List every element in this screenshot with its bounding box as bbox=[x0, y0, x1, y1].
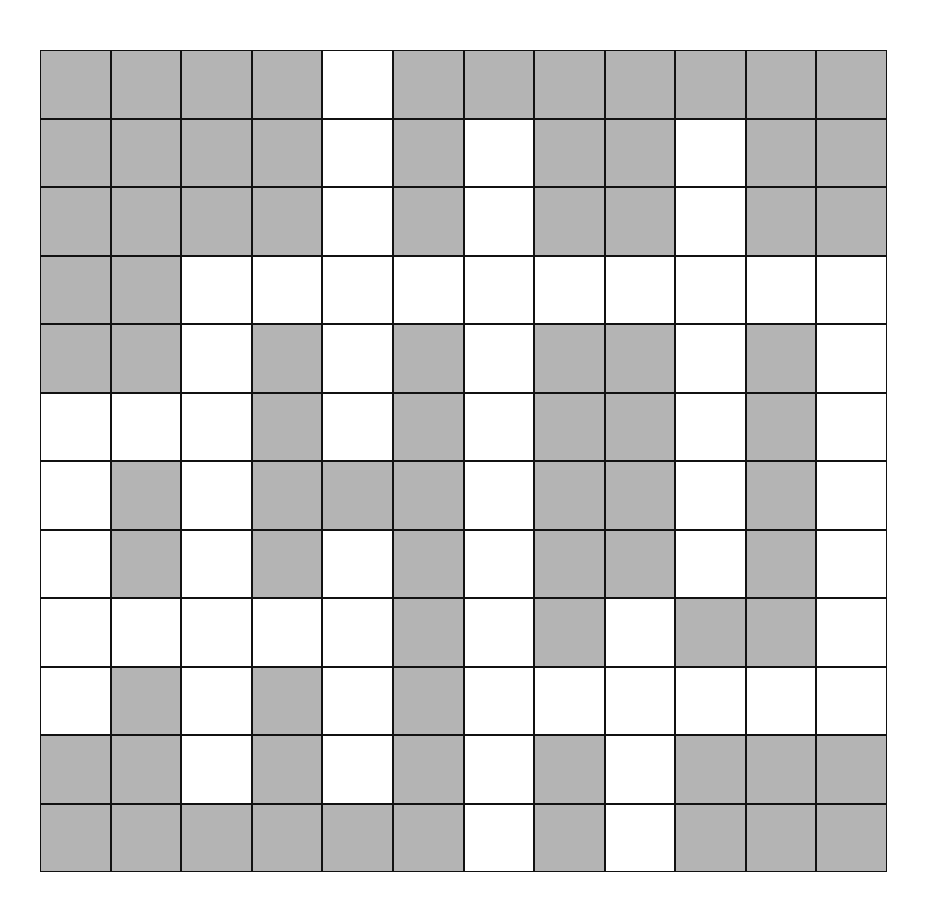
shaded-cell bbox=[394, 736, 463, 803]
empty-cell[interactable] bbox=[394, 257, 463, 324]
shaded-cell bbox=[465, 51, 534, 118]
empty-cell[interactable] bbox=[253, 257, 322, 324]
empty-cell[interactable] bbox=[323, 668, 392, 735]
empty-cell[interactable] bbox=[817, 325, 886, 392]
empty-cell[interactable] bbox=[817, 257, 886, 324]
shaded-cell bbox=[394, 394, 463, 461]
empty-cell[interactable] bbox=[182, 462, 251, 529]
shaded-cell bbox=[41, 325, 110, 392]
empty-cell[interactable] bbox=[817, 599, 886, 666]
empty-cell[interactable] bbox=[323, 736, 392, 803]
empty-cell[interactable] bbox=[182, 599, 251, 666]
shaded-cell bbox=[41, 51, 110, 118]
empty-cell[interactable] bbox=[323, 257, 392, 324]
empty-cell[interactable] bbox=[606, 668, 675, 735]
empty-cell[interactable] bbox=[676, 325, 745, 392]
empty-cell[interactable] bbox=[41, 462, 110, 529]
empty-cell[interactable] bbox=[606, 805, 675, 872]
empty-cell[interactable] bbox=[676, 394, 745, 461]
shaded-cell bbox=[253, 325, 322, 392]
empty-cell[interactable] bbox=[323, 188, 392, 255]
empty-cell[interactable] bbox=[323, 325, 392, 392]
empty-cell[interactable] bbox=[323, 51, 392, 118]
empty-cell[interactable] bbox=[676, 668, 745, 735]
shaded-cell bbox=[747, 325, 816, 392]
shaded-cell bbox=[606, 51, 675, 118]
shaded-cell bbox=[676, 599, 745, 666]
empty-cell[interactable] bbox=[606, 257, 675, 324]
empty-cell[interactable] bbox=[323, 531, 392, 598]
empty-cell[interactable] bbox=[323, 599, 392, 666]
empty-cell[interactable] bbox=[606, 599, 675, 666]
shaded-cell bbox=[606, 394, 675, 461]
shaded-cell bbox=[747, 51, 816, 118]
shaded-cell bbox=[394, 599, 463, 666]
empty-cell[interactable] bbox=[676, 462, 745, 529]
shaded-cell bbox=[535, 531, 604, 598]
empty-cell[interactable] bbox=[182, 325, 251, 392]
shaded-cell bbox=[535, 188, 604, 255]
empty-cell[interactable] bbox=[465, 394, 534, 461]
empty-cell[interactable] bbox=[41, 599, 110, 666]
empty-cell[interactable] bbox=[465, 531, 534, 598]
shaded-cell bbox=[535, 325, 604, 392]
shaded-cell bbox=[253, 462, 322, 529]
empty-cell[interactable] bbox=[747, 257, 816, 324]
shaded-cell bbox=[394, 188, 463, 255]
empty-cell[interactable] bbox=[465, 462, 534, 529]
empty-cell[interactable] bbox=[182, 257, 251, 324]
empty-cell[interactable] bbox=[465, 599, 534, 666]
empty-cell[interactable] bbox=[182, 531, 251, 598]
empty-cell[interactable] bbox=[606, 736, 675, 803]
shaded-cell bbox=[747, 805, 816, 872]
empty-cell[interactable] bbox=[323, 394, 392, 461]
empty-cell[interactable] bbox=[676, 188, 745, 255]
empty-cell[interactable] bbox=[817, 394, 886, 461]
shaded-cell bbox=[394, 531, 463, 598]
shaded-cell bbox=[253, 51, 322, 118]
shaded-cell bbox=[606, 325, 675, 392]
empty-cell[interactable] bbox=[112, 599, 181, 666]
empty-cell[interactable] bbox=[465, 188, 534, 255]
shaded-cell bbox=[253, 120, 322, 187]
shaded-cell bbox=[41, 257, 110, 324]
empty-cell[interactable] bbox=[182, 736, 251, 803]
shaded-cell bbox=[394, 668, 463, 735]
empty-cell[interactable] bbox=[465, 120, 534, 187]
empty-cell[interactable] bbox=[323, 120, 392, 187]
shaded-cell bbox=[41, 805, 110, 872]
shaded-cell bbox=[112, 188, 181, 255]
shaded-cell bbox=[112, 668, 181, 735]
empty-cell[interactable] bbox=[465, 668, 534, 735]
crossword-grid bbox=[40, 50, 887, 872]
empty-cell[interactable] bbox=[41, 394, 110, 461]
empty-cell[interactable] bbox=[41, 668, 110, 735]
empty-cell[interactable] bbox=[676, 120, 745, 187]
empty-cell[interactable] bbox=[112, 394, 181, 461]
shaded-cell bbox=[676, 51, 745, 118]
empty-cell[interactable] bbox=[41, 531, 110, 598]
empty-cell[interactable] bbox=[253, 599, 322, 666]
shaded-cell bbox=[253, 736, 322, 803]
empty-cell[interactable] bbox=[817, 668, 886, 735]
empty-cell[interactable] bbox=[465, 257, 534, 324]
empty-cell[interactable] bbox=[676, 257, 745, 324]
shaded-cell bbox=[817, 805, 886, 872]
empty-cell[interactable] bbox=[182, 394, 251, 461]
shaded-cell bbox=[112, 531, 181, 598]
shaded-cell bbox=[41, 120, 110, 187]
empty-cell[interactable] bbox=[535, 257, 604, 324]
shaded-cell bbox=[253, 188, 322, 255]
empty-cell[interactable] bbox=[182, 668, 251, 735]
empty-cell[interactable] bbox=[465, 805, 534, 872]
empty-cell[interactable] bbox=[676, 531, 745, 598]
shaded-cell bbox=[817, 188, 886, 255]
shaded-cell bbox=[606, 120, 675, 187]
empty-cell[interactable] bbox=[465, 325, 534, 392]
shaded-cell bbox=[41, 188, 110, 255]
empty-cell[interactable] bbox=[535, 668, 604, 735]
empty-cell[interactable] bbox=[747, 668, 816, 735]
empty-cell[interactable] bbox=[465, 736, 534, 803]
empty-cell[interactable] bbox=[817, 531, 886, 598]
empty-cell[interactable] bbox=[817, 462, 886, 529]
